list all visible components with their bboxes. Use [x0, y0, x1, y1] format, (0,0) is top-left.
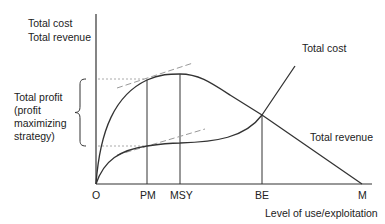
brace-label-line1: Total profit	[14, 91, 62, 104]
total-cost-curve	[96, 66, 295, 184]
origin-label: O	[92, 189, 100, 202]
y-axis-label-line2: Total revenue	[28, 31, 91, 44]
x-tick-msy: MSY	[170, 189, 193, 202]
brace-label-line2: (profit	[14, 104, 41, 117]
revenue-tangent-line	[117, 63, 193, 88]
total-revenue-label: Total revenue	[310, 131, 373, 144]
total-revenue-curve	[96, 74, 362, 184]
x-tick-pm: PM	[140, 189, 156, 202]
x-axis-label: Level of use/exploitation	[265, 207, 378, 220]
x-tick-be: BE	[255, 189, 269, 202]
y-axis-label-line1: Total cost	[28, 17, 72, 30]
brace-label-line3: maximizing	[14, 117, 67, 130]
profit-brace	[75, 79, 86, 146]
brace-label-line4: strategy)	[14, 130, 55, 143]
x-tick-m: M	[358, 189, 367, 202]
total-cost-label: Total cost	[302, 42, 346, 55]
